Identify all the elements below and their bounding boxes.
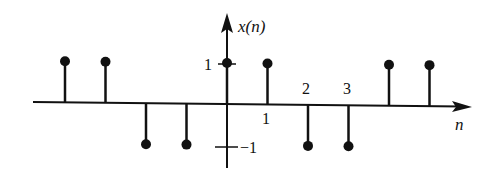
x-tick-label-1: 1	[262, 110, 270, 127]
stem-marker	[344, 141, 354, 151]
stem-marker	[384, 60, 394, 70]
x-axis	[33, 102, 462, 107]
stem-marker	[60, 56, 70, 66]
x-axis-label: n	[455, 115, 464, 134]
stem-marker	[263, 58, 273, 68]
y-tick-label-pos: 1	[204, 56, 212, 73]
stem-marker	[303, 141, 313, 151]
x-tick-label-2: 2	[302, 80, 310, 97]
y-axis-label: x(n)	[237, 17, 266, 36]
x-tick-label-3: 3	[343, 80, 351, 97]
stem-marker	[222, 58, 232, 68]
stem-marker	[425, 60, 435, 70]
stem-plot: x(n) n 1 −1 1 2 3	[0, 0, 495, 174]
stem-marker	[101, 57, 111, 67]
y-tick-label-neg: −1	[240, 139, 257, 156]
stem-marker	[182, 140, 192, 150]
stem-marker	[141, 139, 151, 149]
